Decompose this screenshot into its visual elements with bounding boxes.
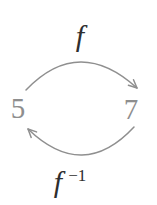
arrow-f-inverse — [28, 127, 134, 155]
function-inverse-diagram: f 5 7 f −1 — [0, 0, 157, 205]
label-f: f — [76, 19, 88, 52]
value-right: 7 — [124, 93, 139, 125]
label-f-inverse-superscript: −1 — [68, 166, 86, 185]
value-left: 5 — [11, 92, 26, 124]
label-f-inverse: f −1 — [54, 165, 86, 198]
diagram-canvas: f 5 7 f −1 — [0, 0, 157, 205]
arrow-f-forward — [26, 62, 137, 90]
label-f-inverse-base: f — [54, 165, 66, 198]
